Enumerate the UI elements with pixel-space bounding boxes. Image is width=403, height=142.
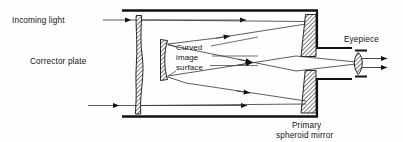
label-primary-mirror-line1: Primary: [292, 121, 322, 130]
label-corrector-plate: Corrector plate: [30, 57, 87, 66]
label-curved-image-line2: image: [176, 53, 199, 62]
label-incoming-light: Incoming light: [12, 16, 65, 25]
telescope-diagram-svg: Incoming light Corrector plate Curved im…: [0, 0, 403, 142]
label-curved-image-line1: Curved: [176, 43, 202, 52]
optical-diagram: Incoming light Corrector plate Curved im…: [0, 0, 403, 142]
label-curved-image-line3: surface: [176, 63, 203, 72]
label-eyepiece: Eyepiece: [344, 35, 379, 44]
label-primary-mirror-line2: spheroid mirror: [276, 131, 333, 140]
